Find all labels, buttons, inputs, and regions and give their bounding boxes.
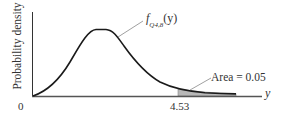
x-axis-label: y <box>265 86 270 101</box>
x-tick-origin: 0 <box>18 100 24 112</box>
chart-container: Probability density 0 4.53 y Area = 0.05… <box>0 0 289 118</box>
chart-plot <box>0 0 289 118</box>
curve-label: fQ4,8(y) <box>146 11 177 27</box>
curve-label-leader <box>118 21 143 37</box>
area-annotation: Area = 0.05 <box>211 71 266 83</box>
y-axis-label: Probability density <box>11 0 23 96</box>
area-label-leader <box>190 78 211 90</box>
curve-label-subscript: Q4,8 <box>149 21 163 29</box>
curve-label-arg: (y) <box>163 11 177 25</box>
x-tick-critical-value: 4.53 <box>170 100 189 112</box>
density-curve <box>33 30 236 97</box>
